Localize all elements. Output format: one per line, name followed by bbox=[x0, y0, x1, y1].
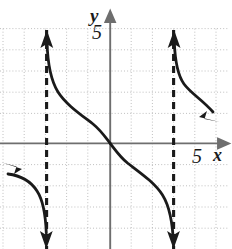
x-axis-label: x bbox=[213, 146, 222, 164]
curve-branch-upper-left bbox=[47, 42, 110, 143]
coordinate-plane bbox=[0, 0, 232, 249]
grid-lines bbox=[0, 29, 229, 249]
arrowhead-down-right bbox=[199, 111, 220, 122]
curve-branch-far-left bbox=[8, 174, 46, 233]
axes bbox=[0, 11, 229, 249]
curve-branch-far-right bbox=[174, 42, 213, 112]
y-axis-arrowhead bbox=[105, 11, 115, 22]
curve-branch-lower-center bbox=[110, 143, 173, 245]
graph-figure: y x 5 5 bbox=[0, 0, 232, 249]
x-axis-tick-5: 5 bbox=[192, 146, 202, 166]
y-axis-tick-5: 5 bbox=[92, 22, 102, 42]
